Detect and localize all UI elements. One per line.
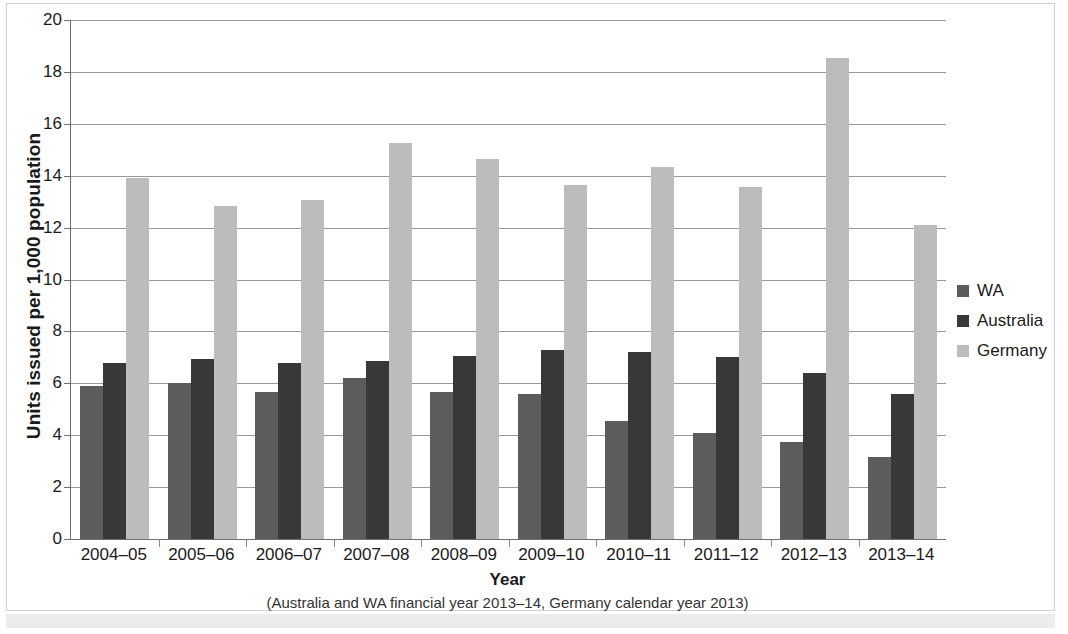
y-axis-tick-label: 4 — [22, 425, 62, 445]
y-axis-tick-label: 14 — [22, 166, 62, 186]
legend-item-australia[interactable]: Australia — [957, 306, 1047, 336]
bar-group — [596, 20, 684, 539]
figure-bottom-band — [6, 614, 1055, 628]
x-axis-tick-label: 2007–08 — [333, 545, 421, 565]
legend-item-wa[interactable]: WA — [957, 276, 1047, 306]
bar-wa[interactable] — [168, 383, 191, 539]
bar-group — [71, 20, 159, 539]
y-axis-tick-mark — [64, 280, 71, 281]
legend-item-label: Australia — [977, 311, 1043, 331]
bar-groups — [71, 20, 946, 539]
y-axis-tick-label: 2 — [22, 477, 62, 497]
bar-group — [684, 20, 772, 539]
y-axis-tick-mark — [64, 20, 71, 21]
bar-australia[interactable] — [103, 363, 126, 539]
x-axis-tick-label: 2012–13 — [770, 545, 858, 565]
x-axis-tick-label: 2013–14 — [858, 545, 946, 565]
bar-group — [334, 20, 422, 539]
bar-group — [421, 20, 509, 539]
legend-item-label: WA — [977, 281, 1004, 301]
bar-australia[interactable] — [278, 363, 301, 539]
bar-wa[interactable] — [868, 457, 891, 539]
bar-germany[interactable] — [651, 167, 674, 539]
bar-wa[interactable] — [343, 378, 366, 539]
bar-australia[interactable] — [453, 356, 476, 539]
bar-wa[interactable] — [605, 421, 628, 539]
figure-bar-chart: Units issued per 1,000 population 201816… — [0, 0, 1068, 634]
y-axis-tick-mark — [64, 487, 71, 488]
bar-australia[interactable] — [716, 357, 739, 539]
bar-wa[interactable] — [80, 386, 103, 539]
x-axis-tick-labels: 2004–052005–062006–072007–082008–092009–… — [70, 545, 945, 565]
legend-swatch-icon — [957, 345, 969, 357]
x-axis-tick-label: 2010–11 — [595, 545, 683, 565]
x-axis-tick-label: 2008–09 — [420, 545, 508, 565]
bar-group — [771, 20, 859, 539]
bar-germany[interactable] — [301, 200, 324, 539]
bar-group — [246, 20, 334, 539]
bar-group — [509, 20, 597, 539]
y-axis-tick-mark — [64, 435, 71, 436]
y-axis-tick-label: 0 — [22, 529, 62, 549]
bar-australia[interactable] — [803, 373, 826, 539]
y-axis-tick-label: 16 — [22, 114, 62, 134]
bar-germany[interactable] — [914, 225, 937, 539]
chart-legend: WAAustraliaGermany — [957, 276, 1047, 366]
x-axis-note: (Australia and WA financial year 2013–14… — [70, 594, 945, 611]
legend-swatch-icon — [957, 285, 969, 297]
bar-group — [859, 20, 947, 539]
bar-germany[interactable] — [739, 187, 762, 539]
bar-australia[interactable] — [366, 361, 389, 539]
y-axis-tick-mark — [64, 124, 71, 125]
bar-wa[interactable] — [693, 433, 716, 539]
y-axis-tick-mark — [64, 331, 71, 332]
bar-wa[interactable] — [430, 392, 453, 539]
bar-germany[interactable] — [126, 178, 149, 539]
y-axis-tick-label: 10 — [22, 270, 62, 290]
bar-germany[interactable] — [389, 143, 412, 539]
x-axis-tick-label: 2006–07 — [245, 545, 333, 565]
legend-swatch-icon — [957, 315, 969, 327]
y-axis-tick-label: 6 — [22, 373, 62, 393]
y-axis-tick-mark — [64, 176, 71, 177]
bar-wa[interactable] — [518, 394, 541, 539]
x-axis-tick-label: 2005–06 — [158, 545, 246, 565]
y-axis-tick-mark — [64, 383, 71, 384]
plot-area: 20181614121086420 — [70, 20, 946, 540]
legend-item-germany[interactable]: Germany — [957, 336, 1047, 366]
y-axis-tick-label: 12 — [22, 218, 62, 238]
x-axis-tick-label: 2011–12 — [683, 545, 771, 565]
bar-germany[interactable] — [826, 58, 849, 539]
bar-wa[interactable] — [780, 442, 803, 539]
legend-item-label: Germany — [977, 341, 1047, 361]
y-axis-tick-label: 18 — [22, 62, 62, 82]
y-axis-tick-label: 20 — [22, 10, 62, 30]
bar-group — [159, 20, 247, 539]
bar-australia[interactable] — [628, 352, 651, 539]
y-axis-tick-label: 8 — [22, 321, 62, 341]
bar-germany[interactable] — [214, 206, 237, 539]
y-axis-tick-mark — [64, 539, 71, 540]
bar-australia[interactable] — [541, 350, 564, 539]
x-axis-tick-label: 2009–10 — [508, 545, 596, 565]
x-axis-tick-label: 2004–05 — [70, 545, 158, 565]
bar-wa[interactable] — [255, 392, 278, 539]
bar-germany[interactable] — [476, 159, 499, 539]
y-axis-tick-mark — [64, 228, 71, 229]
y-axis-tick-mark — [64, 72, 71, 73]
bar-australia[interactable] — [891, 394, 914, 539]
bar-australia[interactable] — [191, 359, 214, 539]
bar-germany[interactable] — [564, 185, 587, 539]
x-axis-label: Year — [70, 570, 945, 590]
